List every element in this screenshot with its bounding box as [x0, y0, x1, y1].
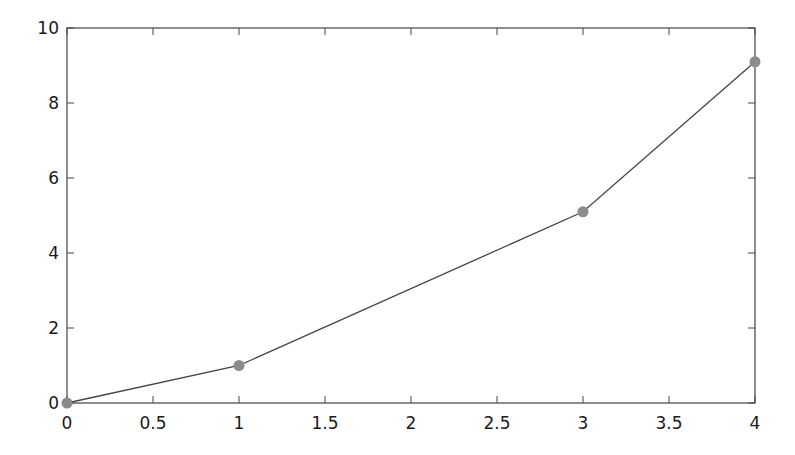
x-tick-label: 3.5: [655, 413, 682, 433]
plot-frame: [67, 28, 755, 403]
x-tick-label: 0: [62, 413, 73, 433]
y-axis-ticks: 0246810: [37, 18, 755, 413]
y-tick-label: 8: [48, 93, 59, 113]
data-point-marker: [62, 398, 73, 409]
data-point-marker: [750, 56, 761, 67]
x-tick-label: 3: [578, 413, 589, 433]
x-tick-label: 4: [750, 413, 761, 433]
x-tick-label: 1: [234, 413, 245, 433]
series-line: [67, 62, 755, 403]
y-tick-label: 2: [48, 318, 59, 338]
y-tick-label: 10: [37, 18, 59, 38]
x-tick-label: 2: [406, 413, 417, 433]
y-tick-label: 4: [48, 243, 59, 263]
line-chart: 00.511.522.533.54 0246810: [0, 0, 795, 455]
y-tick-label: 6: [48, 168, 59, 188]
y-tick-label: 0: [48, 393, 59, 413]
data-series: [62, 56, 761, 408]
x-axis-ticks: 00.511.522.533.54: [62, 28, 761, 433]
data-point-marker: [578, 206, 589, 217]
data-point-marker: [234, 360, 245, 371]
x-tick-label: 1.5: [311, 413, 338, 433]
x-tick-label: 0.5: [139, 413, 166, 433]
x-tick-label: 2.5: [483, 413, 510, 433]
